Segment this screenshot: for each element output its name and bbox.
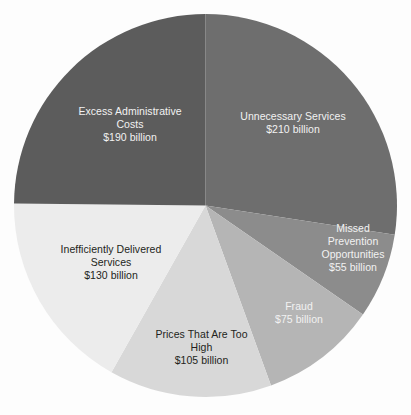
- pie-slice-excess-administrative-costs[interactable]: [14, 14, 205, 206]
- pie-chart-figure: Unnecessary Services $210 billion Excess…: [0, 0, 411, 415]
- pie-slice-unnecessary-services[interactable]: [206, 14, 397, 235]
- pie-chart-graphic: [0, 0, 411, 415]
- pie-slices: [14, 14, 397, 397]
